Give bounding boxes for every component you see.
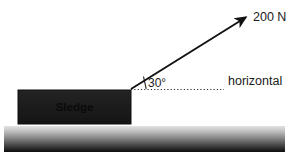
force-magnitude-label: 200 N: [253, 10, 286, 24]
sledge-block-label: Sledge: [56, 101, 94, 113]
force-diagram: Sledge 30° 200 N horizontal: [0, 0, 294, 156]
angle-label: 30°: [148, 76, 166, 90]
ground-surface: [4, 126, 285, 152]
angle-arc-mark: [144, 77, 147, 89]
horizontal-line-label: horizontal: [228, 74, 282, 88]
diagram-canvas: Sledge 30° 200 N horizontal: [0, 0, 294, 156]
